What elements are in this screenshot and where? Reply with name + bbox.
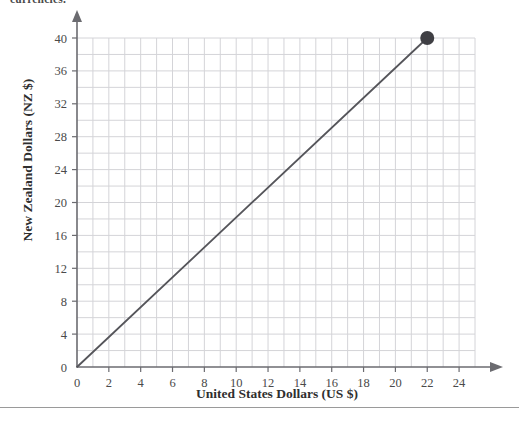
y-axis-tick-label: 16: [55, 229, 68, 243]
conversion-line-chart: 024681012141618202224 048121620242832364…: [0, 0, 519, 426]
y-axis-tick-label: 8: [61, 295, 67, 309]
y-axis-tick-label: 32: [55, 97, 68, 111]
y-axis-tick-label: 40: [55, 32, 68, 46]
y-axis-arrow-icon: [72, 10, 82, 22]
y-axis-title: New Zealand Dollars (NZ $): [20, 50, 36, 270]
y-axis-tick-label: 4: [61, 328, 68, 342]
y-axis-tick-label: 20: [55, 196, 68, 210]
chart-svg: 024681012141618202224 048121620242832364…: [0, 0, 519, 426]
bottom-divider: [0, 407, 519, 408]
gridlines-group: [77, 38, 475, 367]
data-markers-group: [420, 31, 434, 45]
y-axis-tick-label: 28: [55, 130, 68, 144]
y-axis-tick-label: 12: [55, 262, 68, 276]
y-axis-tick-label: 0: [61, 361, 67, 375]
y-axis-tick-label: 36: [55, 64, 68, 78]
x-axis-title: United States Dollars (US $): [77, 386, 477, 402]
y-axis-ticks-group: 0481216202428323640: [55, 32, 78, 375]
y-axis-tick-label: 24: [55, 163, 68, 177]
x-axis-arrow-icon: [490, 362, 503, 372]
data-point-marker: [420, 31, 434, 45]
